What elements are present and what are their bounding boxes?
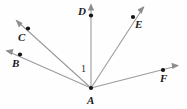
diagram-canvas — [0, 0, 187, 109]
point-label-F: F — [160, 73, 167, 84]
angle-label-1: 1 — [81, 64, 86, 74]
ray-arrowheads — [6, 4, 180, 70]
arrowhead-F-icon — [172, 63, 180, 69]
ray-line-AC — [17, 21, 91, 88]
geometry-figure: B C D E F A 1 — [0, 0, 187, 109]
point-label-B: B — [12, 58, 19, 69]
arrowhead-B-icon — [6, 49, 14, 55]
arrowhead-D-icon — [88, 4, 94, 11]
ray-lines — [7, 5, 177, 88]
point-label-A: A — [87, 95, 94, 106]
point-dot-A — [89, 86, 93, 90]
arrowhead-C-icon — [16, 20, 23, 28]
point-label-E: E — [135, 19, 142, 30]
point-label-C: C — [18, 32, 25, 43]
point-label-D: D — [78, 6, 86, 17]
point-dot-C — [26, 26, 30, 30]
point-dot-B — [18, 52, 22, 56]
arrowhead-E-icon — [138, 6, 145, 14]
point-dot-D — [89, 13, 93, 17]
